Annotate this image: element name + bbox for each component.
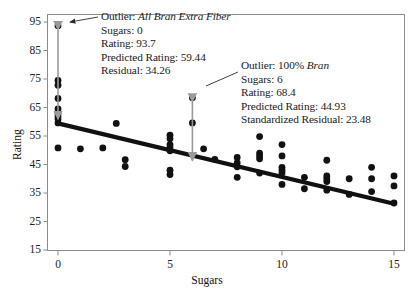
data-point	[301, 185, 308, 192]
annotation-line: Rating: 68.4	[241, 86, 371, 100]
annotation-text: Predicted Rating: 59.44	[101, 51, 206, 63]
data-point	[113, 120, 120, 127]
x-axis-label: Sugars	[0, 274, 414, 286]
data-point	[323, 157, 330, 164]
y-axis-label: Rating	[11, 129, 23, 160]
annotation-emphasis: All Bran Extra Fiber	[138, 10, 230, 22]
data-point	[167, 171, 174, 178]
data-point	[122, 156, 129, 163]
data-point	[391, 200, 398, 207]
annotation-outlier-100-bran: Outlier: 100% BranSugars: 6Rating: 68.4P…	[241, 59, 371, 127]
annotation-text: Predicted Rating: 44.93	[241, 100, 346, 112]
annotation-line: Sugars: 6	[241, 73, 371, 87]
annotation-line: Standardized Residual: 23.48	[241, 113, 371, 127]
data-point	[99, 145, 106, 152]
annotation-emphasis: Bran	[307, 59, 329, 71]
data-point	[391, 182, 398, 189]
annotation-line: Rating: 93.7	[101, 37, 231, 51]
x-tick-label: 15	[374, 258, 414, 270]
x-tick-label: 5	[150, 258, 190, 270]
y-tick-label: 75	[0, 72, 41, 84]
annotation-outlier-all-bran: Outlier: All Bran Extra FiberSugars: 0Ra…	[101, 10, 231, 78]
annotation-line: Outlier: 100% Bran	[241, 59, 371, 73]
data-point	[200, 145, 207, 152]
y-tick-label: 95	[0, 15, 41, 27]
data-point	[167, 147, 174, 154]
y-tick-label: 65	[0, 101, 41, 113]
data-point	[346, 191, 353, 198]
data-point	[279, 170, 286, 177]
x-tick-label: 0	[38, 258, 78, 270]
annotation-text: Outlier:	[101, 10, 138, 22]
annotation-text: Rating: 68.4	[241, 86, 296, 98]
data-point	[301, 174, 308, 181]
data-point	[211, 156, 218, 163]
annotation-text: Residual: 34.26	[101, 64, 170, 76]
x-tick-label: 10	[262, 258, 302, 270]
data-point	[77, 145, 84, 152]
data-point	[279, 181, 286, 188]
data-point	[368, 164, 375, 171]
data-point	[346, 175, 353, 182]
data-point	[323, 187, 330, 194]
data-point	[256, 170, 263, 177]
data-point	[55, 145, 62, 152]
data-point	[122, 163, 129, 170]
data-point	[256, 155, 263, 162]
y-tick-label: 85	[0, 44, 41, 56]
annotation-text: Sugars: 6	[241, 73, 282, 85]
annotation-line: Sugars: 0	[101, 24, 231, 38]
y-tick-label: 15	[0, 243, 41, 255]
annotation-text: Rating: 93.7	[101, 37, 156, 49]
data-point	[256, 133, 263, 140]
annotation-line: Residual: 34.26	[101, 64, 231, 78]
data-point	[279, 141, 286, 148]
y-tick-label: 25	[0, 215, 41, 227]
data-point	[368, 175, 375, 182]
annotation-line: Predicted Rating: 44.93	[241, 100, 371, 114]
data-point	[55, 22, 62, 29]
data-point	[234, 174, 241, 181]
data-point	[234, 163, 241, 170]
y-tick-label: 35	[0, 186, 41, 198]
scatter-plot-figure: 152535455565758595051015 Sugars Rating O…	[0, 0, 414, 293]
data-point	[279, 153, 286, 160]
data-point	[323, 178, 330, 185]
annotation-line: Predicted Rating: 59.44	[101, 51, 231, 65]
annotation-text: Outlier: 100%	[241, 59, 307, 71]
annotation-text: Standardized Residual: 23.48	[241, 113, 371, 125]
annotation-line: Outlier: All Bran Extra Fiber	[101, 10, 231, 24]
data-point	[368, 188, 375, 195]
data-point	[189, 94, 196, 101]
data-point	[55, 119, 62, 126]
annotation-text: Sugars: 0	[101, 24, 142, 36]
data-point	[391, 173, 398, 180]
